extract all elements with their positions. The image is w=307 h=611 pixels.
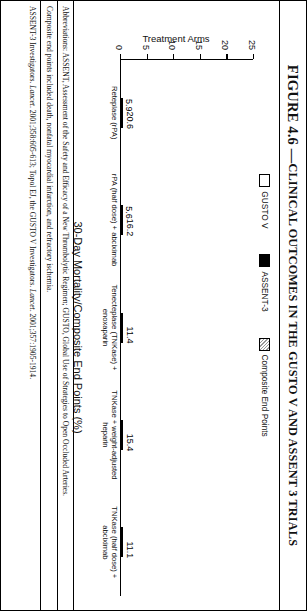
bar-group: 5.411.4 bbox=[122, 274, 124, 381]
figure-title-main: CLINICAL OUTCOMES IN THE GUSTO V AND ASS… bbox=[286, 164, 301, 547]
bar-value-label: 5.9 bbox=[125, 99, 135, 112]
y-axis-tick bbox=[253, 54, 254, 59]
y-axis-tick bbox=[200, 54, 201, 59]
citation-a-journal: Lancet bbox=[28, 85, 37, 106]
figure-title: FIGURE 4.6 — CLINICAL OUTCOMES IN THE GU… bbox=[279, 1, 306, 610]
bar-mortality: 5.9 bbox=[122, 98, 124, 113]
bar-mortality: 6.6 bbox=[122, 527, 124, 542]
legend-item-composite: Composite End Points bbox=[260, 338, 271, 437]
y-axis-tick-label: 25 bbox=[247, 40, 257, 50]
bar-value-label: 11.1 bbox=[126, 541, 136, 558]
legend-item-assent-3: ASSENT-3 bbox=[260, 254, 271, 311]
y-axis-tick bbox=[173, 54, 174, 59]
bar-composite: 16.2 bbox=[122, 220, 124, 235]
citation-b-journal: Lancet bbox=[28, 289, 37, 310]
bar-value-label: 6.0 bbox=[125, 421, 135, 434]
bar-mortality: 5.4 bbox=[122, 313, 124, 328]
bar-mortality: 5.6 bbox=[122, 205, 124, 220]
bar-group: 5.920.6 bbox=[122, 59, 124, 166]
bar-value-label: 11.4 bbox=[126, 327, 136, 344]
y-axis-tick-label: 5 bbox=[141, 45, 151, 50]
bar-composite: 15.4 bbox=[122, 435, 124, 450]
note-citations: ASSENT-3 Investigators. Lancet. 2001;358… bbox=[25, 1, 40, 610]
y-axis-tick-label: 20 bbox=[220, 40, 230, 50]
note-abbreviations: Abbreviations: ASSENT, Assessment of the… bbox=[57, 1, 73, 610]
citation-a-author: ASSENT-3 Investigators. bbox=[28, 6, 37, 85]
y-axis-title: 30-Day Mortality/Composite End Points (%… bbox=[72, 59, 84, 596]
bar-group: 5.616.2 bbox=[122, 166, 124, 273]
black-square-icon bbox=[260, 254, 271, 267]
figure-title-prefix: FIGURE 4.6 — bbox=[285, 65, 302, 164]
y-axis-tick bbox=[226, 54, 227, 59]
bar-value-label: 16.2 bbox=[126, 219, 136, 237]
bar-value-label: 15.4 bbox=[126, 434, 136, 452]
bar-composite: 11.1 bbox=[122, 542, 124, 557]
figure-notes: Abbreviations: ASSENT, Assessment of the… bbox=[25, 1, 73, 610]
citation-a-rest: . 2001;358:605-613; Topol EJ, the GUSTO … bbox=[28, 106, 37, 289]
legend-item-gusto-v: GUSTO V bbox=[260, 174, 271, 228]
legend-label-assent-3: ASSENT-3 bbox=[260, 271, 270, 311]
bar-groups: 5.920.65.616.25.411.46.015.46.611.1 bbox=[122, 59, 254, 596]
y-axis-tick-label: 0 bbox=[114, 45, 124, 50]
bar-mortality: 6.0 bbox=[122, 420, 124, 435]
plot-region: 5.920.65.616.25.411.46.015.46.611.1 0510… bbox=[120, 59, 253, 596]
note-composite-definition: Composite end points included death, non… bbox=[40, 1, 56, 610]
bar-group: 6.015.4 bbox=[122, 381, 124, 488]
figure-container: FIGURE 4.6 — CLINICAL OUTCOMES IN THE GU… bbox=[0, 0, 307, 611]
bar-value-label: 5.4 bbox=[125, 314, 135, 327]
chart-area: GUSTO V ASSENT-3 Composite End Points 5.… bbox=[73, 1, 279, 610]
legend-label-gusto-v: GUSTO V bbox=[260, 191, 270, 228]
bar-value-label: 5.6 bbox=[125, 206, 135, 219]
x-axis-title: Treatment Arms bbox=[143, 33, 210, 44]
legend-label-composite: Composite End Points bbox=[260, 355, 270, 437]
citation-b-rest: . 2001;357:1905-1914. bbox=[28, 310, 37, 379]
bar-composite: 11.4 bbox=[122, 328, 124, 343]
chart-legend: GUSTO V ASSENT-3 Composite End Points bbox=[257, 1, 273, 610]
bar-group: 6.611.1 bbox=[122, 489, 124, 596]
hatched-square-icon bbox=[260, 338, 271, 351]
rotated-figure-canvas: FIGURE 4.6 — CLINICAL OUTCOMES IN THE GU… bbox=[0, 0, 307, 611]
bar-value-label: 6.6 bbox=[125, 529, 135, 542]
white-square-icon bbox=[260, 174, 271, 187]
plot-inner: 5.920.65.616.25.411.46.015.46.611.1 0510… bbox=[120, 59, 253, 596]
bar-value-label: 20.6 bbox=[126, 111, 136, 129]
y-axis-tick bbox=[120, 54, 121, 59]
bar-composite: 20.6 bbox=[122, 113, 124, 128]
y-axis-tick bbox=[147, 54, 148, 59]
